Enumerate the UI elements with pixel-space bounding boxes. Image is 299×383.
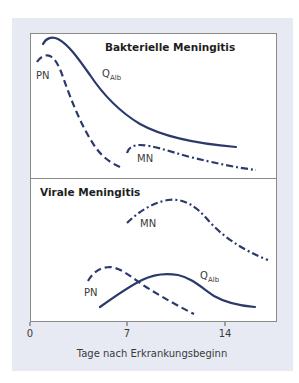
- svg-text:Alb: Alb: [208, 276, 220, 284]
- viral-qalb-curve: [100, 274, 255, 307]
- viral-mn-curve: [127, 200, 268, 260]
- svg-text:Q: Q: [102, 68, 110, 79]
- bacterial-qalb-label: Q Alb: [102, 68, 122, 82]
- svg-text:Q: Q: [200, 270, 208, 281]
- svg-text:Alb: Alb: [110, 74, 122, 82]
- viral-qalb-label: Q Alb: [200, 270, 220, 284]
- panel-title-bacterial: Bakterielle Meningitis: [105, 41, 235, 53]
- tick-label-7: 7: [124, 328, 130, 339]
- panel-viral: Virale Meningitis MN PN Q Alb: [40, 186, 268, 314]
- bacterial-qalb-curve: [43, 38, 236, 147]
- meningitis-chart: Bakterielle Meningitis PN Q Alb MN Viral…: [0, 0, 299, 383]
- viral-pn-label: PN: [84, 287, 98, 298]
- tick-label-14: 14: [219, 328, 232, 339]
- x-axis: 0 7 14 Tage nach Erkrankungsbeginn: [27, 322, 232, 359]
- x-axis-label: Tage nach Erkrankungsbeginn: [76, 348, 228, 359]
- panel-bacterial: Bakterielle Meningitis PN Q Alb MN: [36, 38, 256, 170]
- bacterial-pn-label: PN: [36, 70, 50, 81]
- bacterial-pn-curve: [37, 55, 123, 168]
- panel-title-viral: Virale Meningitis: [40, 186, 140, 198]
- tick-label-0: 0: [27, 328, 33, 339]
- viral-mn-label: MN: [140, 218, 156, 229]
- bacterial-mn-label: MN: [137, 153, 153, 164]
